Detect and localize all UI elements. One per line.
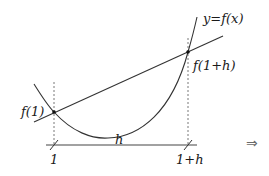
label-f1h: f(1+h) [192,58,236,73]
label-f1: f(1) [20,104,44,119]
point-f1 [52,110,56,114]
label-curve: y=f(x) [202,11,244,26]
label-h: h [115,132,123,147]
label-x-left: 1 [50,152,58,167]
label-x-right: 1+h [176,152,204,167]
secant-diagram: y=f(x) f(1+h) f(1) h 1 1+h ⇒ [0,0,269,176]
secant-line [34,36,223,122]
point-f1h [186,50,190,54]
implies-arrow-icon: ⇒ [246,135,258,151]
curve-f [34,17,197,138]
